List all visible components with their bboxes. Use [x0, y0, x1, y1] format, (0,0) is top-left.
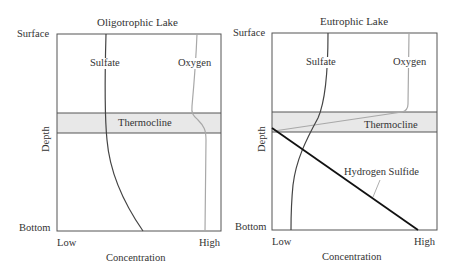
bottom-label: Bottom — [235, 222, 267, 233]
sulfate-label: Sulfate — [89, 58, 121, 69]
oxygen-label: Oxygen — [392, 57, 427, 68]
depth-axis-label: Depth — [41, 126, 52, 152]
surface-label: Surface — [17, 29, 49, 40]
diagram-graphics — [0, 0, 453, 277]
sulfate-label: Sulfate — [305, 57, 337, 68]
surface-label: Surface — [233, 28, 265, 39]
thermocline-label: Thermocline — [364, 120, 418, 131]
x-low-label: Low — [57, 238, 76, 249]
bottom-label: Bottom — [19, 223, 51, 234]
x-high-label: High — [199, 238, 220, 249]
thermocline-label: Thermocline — [118, 118, 172, 129]
x-axis-label: Concentration — [106, 253, 165, 264]
x-low-label: Low — [272, 237, 291, 248]
hydrogen-sulfide-leader — [373, 180, 380, 197]
depth-axis-label: Depth — [257, 126, 268, 152]
oxygen-label: Oxygen — [177, 58, 212, 69]
hydrogen-sulfide-label: Hydrogen Sulfide — [344, 167, 419, 178]
x-axis-label: Concentration — [322, 252, 381, 263]
x-high-label: High — [414, 237, 435, 248]
lake-chemistry-figure: Oligotrophic Lake Surface Bottom Depth L… — [0, 0, 453, 277]
panel-title-oligotrophic: Oligotrophic Lake — [97, 17, 178, 28]
panel-title-eutrophic: Eutrophic Lake — [320, 16, 388, 27]
